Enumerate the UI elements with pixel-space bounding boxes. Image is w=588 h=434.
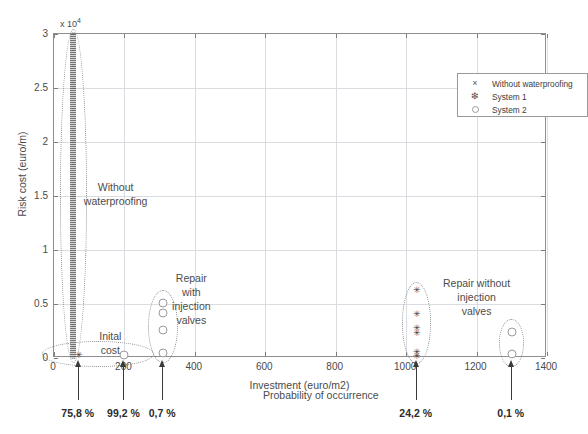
asterisk-marker-icon: ❇ [458, 92, 492, 101]
y-axis-tick [541, 142, 545, 143]
group-annotation-repair-with-injection-valves-group: Repair with injection valves [131, 271, 251, 327]
x-axis-tick [477, 34, 478, 38]
y-axis-title: Risk cost (euro/m) [16, 89, 28, 259]
y-axis-tick [54, 34, 58, 35]
legend-item-system-1: ❇ System 1 [458, 90, 587, 103]
x-axis-tick [265, 352, 266, 356]
x-marker-icon: × [458, 79, 492, 88]
y-axis-tick [541, 358, 545, 359]
gridline-horizontal [54, 142, 545, 143]
gridline-vertical [265, 34, 266, 356]
x-axis-tick-label: 600 [256, 361, 273, 372]
x-axis-tick [265, 34, 266, 38]
x-axis-tick-label: 400 [186, 361, 203, 372]
legend: × Without waterproofing ❇ System 1 Syste… [457, 73, 588, 117]
probability-caption: Probability of occurrence [263, 389, 379, 401]
x-axis-tick [477, 352, 478, 356]
y-axis-tick-label: 2.5 [22, 82, 48, 93]
y-axis-tick-label: 0.5 [22, 298, 48, 309]
y-axis-tick [54, 250, 58, 251]
probability-arrow [511, 366, 512, 400]
y-axis-tick [541, 196, 545, 197]
x-axis-tick-label: 800 [326, 361, 343, 372]
probability-label: 99,2 % [107, 407, 140, 419]
x-axis-tick [195, 34, 196, 38]
plot-area: ×××××××××××××××××××✳✳✳✳✳✳✳ Without water… [53, 33, 546, 357]
data-point-open-circle [507, 349, 516, 358]
x-axis-tick-label: 1400 [535, 361, 557, 372]
gridline-vertical [406, 34, 407, 356]
y-axis-multiplier-base: x 10 [60, 19, 77, 29]
probability-arrow [162, 366, 163, 400]
x-axis-tick [547, 34, 548, 38]
y-axis-tick-label: 2 [22, 136, 48, 147]
legend-item-without-waterproofing: × Without waterproofing [458, 77, 587, 90]
y-axis-tick [541, 34, 545, 35]
y-axis-tick [541, 304, 545, 305]
legend-label: Without waterproofing [492, 79, 587, 89]
legend-label: System 2 [492, 105, 587, 115]
open-circle-marker-icon [458, 105, 492, 114]
probability-label: 24,2 % [399, 407, 432, 419]
legend-item-system-2: System 2 [458, 103, 587, 116]
y-axis-tick-label: 3 [22, 28, 48, 39]
y-axis-tick [54, 358, 58, 359]
group-annotation-without-waterproofing-group: Without waterproofing [56, 180, 176, 208]
x-axis-tick-label: 0 [50, 361, 56, 372]
probability-arrow [123, 366, 124, 400]
data-point-asterisk: ✳ [413, 351, 421, 360]
x-axis-tick [547, 352, 548, 356]
y-axis-tick-label: 0 [22, 352, 48, 363]
x-axis-tick [124, 34, 125, 38]
data-point-asterisk: ✳ [413, 329, 421, 338]
x-axis-tick [406, 34, 407, 38]
gridline-vertical [336, 34, 337, 356]
group-annotation-repair-without-injection-valves-group: Repair without injection valves [417, 276, 537, 318]
legend-label: System 1 [492, 92, 587, 102]
probability-label: 0,7 % [149, 407, 176, 419]
data-point-open-circle [507, 328, 516, 337]
y-axis-tick [541, 250, 545, 251]
probability-label: 75,8 % [61, 407, 94, 419]
probability-label: 0,1 % [497, 407, 524, 419]
y-axis-tick [54, 142, 58, 143]
x-axis-tick-label: 1200 [464, 361, 486, 372]
probability-arrow [416, 366, 417, 400]
y-axis-tick-label: 1.5 [22, 190, 48, 201]
x-axis-tick [195, 352, 196, 356]
x-axis-tick [406, 352, 407, 356]
y-axis-tick-label: 1 [22, 244, 48, 255]
y-axis-tick [54, 88, 58, 89]
y-axis-multiplier: x 104 [60, 17, 81, 29]
x-axis-tick [336, 352, 337, 356]
y-axis-tick [54, 304, 58, 305]
probability-arrow [78, 366, 79, 400]
x-axis-tick [336, 34, 337, 38]
group-annotation-initial-cost-group: Inital cost [50, 329, 170, 357]
y-axis-multiplier-exponent: 4 [77, 17, 81, 24]
gridline-horizontal [54, 250, 545, 251]
